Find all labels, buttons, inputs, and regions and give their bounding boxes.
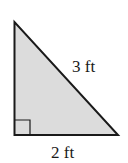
triangle-diagram: 3 ft 2 ft xyxy=(0,0,128,163)
hypotenuse-label: 3 ft xyxy=(72,57,95,76)
right-triangle xyxy=(15,22,119,135)
base-label: 2 ft xyxy=(51,143,74,162)
